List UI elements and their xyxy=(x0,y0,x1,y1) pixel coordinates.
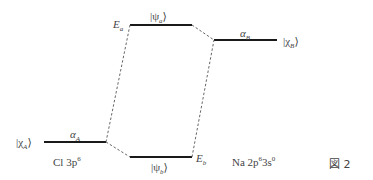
label-psi-b: |ψb⟩ xyxy=(151,162,168,173)
label-alpha-A: αA xyxy=(70,129,80,140)
label-chi-B: |χB⟩ xyxy=(283,36,299,47)
connector-b-to-B xyxy=(192,40,214,157)
label-E-b: Eb xyxy=(196,153,206,164)
connector-A-to-b xyxy=(106,142,130,157)
label-config-Na: Na 2p63s0 xyxy=(232,157,275,168)
figure-caption: 図 2 xyxy=(329,159,351,170)
label-config-Cl: Cl 3p6 xyxy=(53,157,81,168)
label-alpha-B: αB xyxy=(240,28,250,39)
connector-a-to-B xyxy=(192,25,214,40)
label-psi-a: |ψa⟩ xyxy=(150,11,167,22)
label-chi-A: |χA⟩ xyxy=(16,137,32,148)
connector-A-to-a xyxy=(106,25,130,142)
mo-energy-diagram xyxy=(0,0,373,180)
label-E-a: Ea xyxy=(113,19,123,30)
